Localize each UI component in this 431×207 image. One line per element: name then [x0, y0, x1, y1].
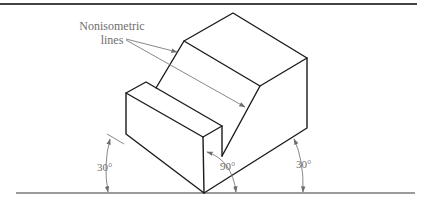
angle-center-label: 90°	[220, 160, 235, 172]
isometric-object	[126, 13, 307, 193]
angle-left-label: 30°	[97, 161, 112, 173]
angle-center-dimension	[207, 152, 236, 192]
nonisometric-label-line2: lines	[101, 33, 124, 47]
isometric-diagram: Nonisometric lines 30° 90° 30°	[0, 0, 431, 207]
nonisometric-label-line1: Nonisometric	[79, 19, 144, 33]
nonisometric-leaders	[126, 39, 245, 107]
angle-right-label: 30°	[296, 158, 311, 170]
